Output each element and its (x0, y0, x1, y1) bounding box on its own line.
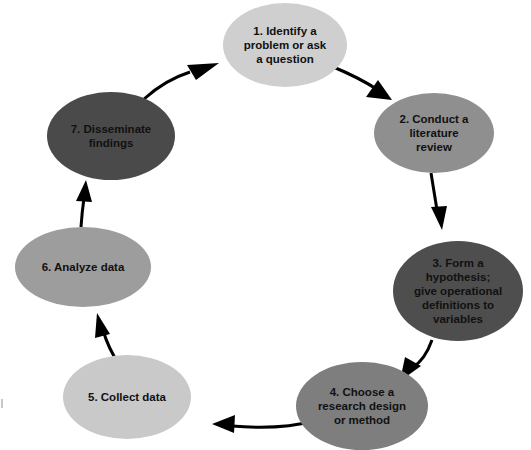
research-cycle-diagram: 1. Identify aproblem or aska question2. … (0, 0, 531, 450)
node-label-line: research design (318, 400, 406, 412)
arrowhead-icon (431, 206, 447, 230)
arrow-7-to-1 (144, 72, 190, 99)
node-label-line: 7. Disseminate (71, 123, 152, 135)
arrowhead-icon (366, 80, 392, 100)
arrow-1-to-2 (331, 66, 378, 90)
node-label-line: or method (334, 414, 390, 426)
node-3: 3. Form ahypothesis;give operationaldefi… (393, 241, 523, 341)
node-label-line: a question (256, 53, 314, 65)
node-label-line: literature (409, 127, 458, 139)
node-label-line: hypothesis; (426, 271, 491, 283)
node-label: 6. Analyze data (42, 261, 125, 273)
node-label-line: 5. Collect data (88, 391, 167, 403)
nodes: 1. Identify aproblem or aska question2. … (15, 3, 523, 450)
arrowhead-icon (212, 415, 235, 433)
node-label-line: 4. Choose a (330, 386, 395, 398)
faint-edge-mark (1, 399, 3, 408)
node-5: 5. Collect data (63, 355, 191, 439)
node-label: 5. Collect data (88, 391, 167, 403)
node-label-line: give operational (414, 285, 502, 297)
node-label-line: definitions to (422, 299, 494, 311)
node-label-line: variables (433, 313, 483, 325)
node-2: 2. Conduct aliteraturereview (374, 93, 494, 173)
node-label-line: findings (89, 137, 134, 149)
arrow-2-to-3 (431, 173, 437, 210)
node-label-line: review (416, 141, 452, 153)
node-6: 6. Analyze data (15, 227, 151, 307)
arrowhead-icon (187, 63, 219, 80)
arrow-6-to-7 (81, 198, 84, 227)
node-4: 4. Choose aresearch designor method (296, 362, 428, 450)
arrowhead-icon (95, 313, 110, 338)
node-label-line: 2. Conduct a (399, 113, 469, 125)
node-label-line: problem or ask (244, 39, 327, 51)
node-1: 1. Identify aproblem or aska question (223, 3, 347, 87)
node-ellipse (47, 92, 175, 180)
node-label-line: 6. Analyze data (42, 261, 125, 273)
node-7: 7. Disseminatefindings (47, 92, 175, 180)
node-label-line: 3. Form a (432, 257, 484, 269)
arrowhead-icon (76, 180, 92, 202)
node-label-line: 1. Identify a (253, 25, 317, 37)
